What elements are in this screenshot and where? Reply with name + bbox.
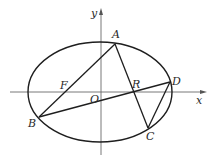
point-label-d: D — [171, 75, 181, 88]
point-label-f: F — [59, 79, 68, 92]
point-label-a: A — [111, 28, 120, 41]
x-axis-label: x — [196, 94, 203, 107]
point-label-c: C — [146, 130, 155, 143]
ellipse-diagram: x y ABCDFRO — [0, 0, 211, 165]
y-axis-arrow-icon — [99, 8, 103, 15]
y-axis-label: y — [90, 7, 98, 20]
segment-bd — [39, 82, 170, 117]
point-label-o: O — [90, 93, 99, 106]
point-label-r: R — [131, 78, 140, 91]
point-label-b: B — [27, 117, 36, 130]
